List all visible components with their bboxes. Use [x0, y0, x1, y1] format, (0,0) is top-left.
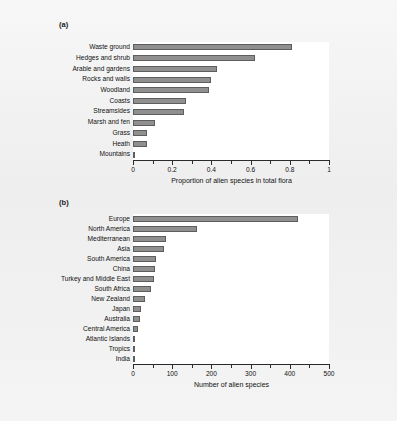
category-label: China: [16, 264, 133, 274]
x-tick-label: 400: [284, 370, 295, 377]
panel-a-category-labels: Waste groundHedges and shrubArable and g…: [20, 42, 133, 160]
category-label: Coasts: [20, 96, 133, 107]
x-tick-minor: [192, 161, 193, 164]
x-tick-label: 0.4: [207, 166, 216, 173]
x-tick-major: [172, 161, 173, 165]
bar: [133, 152, 135, 158]
bar: [133, 286, 151, 292]
x-tick-minor: [153, 161, 154, 164]
bar-row: [133, 354, 329, 364]
x-tick-label: 300: [245, 370, 256, 377]
panel-a-plot-area: [133, 42, 329, 160]
figure-canvas: (a) Waste groundHedges and shrubArable a…: [0, 0, 397, 421]
bar-row: [133, 304, 329, 314]
bar: [133, 236, 166, 242]
x-tick-label: 0.8: [285, 166, 294, 173]
x-tick-major: [172, 365, 173, 369]
bar: [133, 141, 147, 147]
bar-row: [133, 149, 329, 160]
bar: [133, 276, 154, 282]
x-tick-label: 500: [323, 370, 334, 377]
x-tick-major: [251, 365, 252, 369]
bar-row: [133, 63, 329, 74]
x-tick-minor: [309, 365, 310, 368]
category-label: Atlantic Islands: [16, 334, 133, 344]
bar: [133, 77, 211, 83]
bar: [133, 87, 209, 93]
x-tick-major: [251, 161, 252, 165]
category-label: Australia: [16, 314, 133, 324]
category-label: Mountains: [20, 149, 133, 160]
bar-row: [133, 74, 329, 85]
x-tick-label: 0: [131, 370, 135, 377]
bar: [133, 130, 147, 136]
category-label: India: [16, 354, 133, 364]
bar-row: [133, 214, 329, 224]
bar-row: [133, 96, 329, 107]
bar: [133, 246, 164, 252]
bar-row: [133, 42, 329, 53]
panel-b: (b) EuropeNorth AmericaMediterraneanAsia…: [0, 195, 397, 421]
category-label: Tropics: [16, 344, 133, 354]
bar-row: [133, 234, 329, 244]
x-tick-label: 1: [327, 166, 331, 173]
bar-row: [133, 254, 329, 264]
bar-row: [133, 314, 329, 324]
x-tick-major: [133, 161, 134, 165]
x-tick-minor: [153, 365, 154, 368]
bar-row: [133, 139, 329, 150]
bar: [133, 336, 135, 342]
bar: [133, 306, 141, 312]
category-label: North America: [16, 224, 133, 234]
bar: [133, 44, 292, 50]
bar-row: [133, 117, 329, 128]
x-tick-major: [329, 161, 330, 165]
bar: [133, 98, 186, 104]
category-label: Grass: [20, 128, 133, 139]
bar: [133, 316, 140, 322]
panel-a-x-axis-title: Proportion of alien species in total flo…: [133, 177, 330, 184]
panel-b-plot-area: [133, 214, 329, 364]
category-label: New Zealand: [16, 294, 133, 304]
bar: [133, 266, 155, 272]
x-tick-minor: [309, 161, 310, 164]
category-label: Mediterranean: [16, 234, 133, 244]
bar: [133, 109, 184, 115]
bar-row: [133, 106, 329, 117]
category-label: Asia: [16, 244, 133, 254]
x-tick-minor: [231, 365, 232, 368]
bar-row: [133, 53, 329, 64]
category-label: Hedges and shrub: [20, 53, 133, 64]
bar: [133, 256, 156, 262]
bar-row: [133, 244, 329, 254]
x-tick-minor: [270, 161, 271, 164]
category-label: South Africa: [16, 284, 133, 294]
x-tick-major: [211, 161, 212, 165]
bar-row: [133, 344, 329, 354]
category-label: Rocks and walls: [20, 74, 133, 85]
panel-b-x-axis-title: Number of alien species: [133, 381, 330, 388]
x-tick-label: 0.6: [246, 166, 255, 173]
bar: [133, 120, 155, 126]
category-label: Streamsides: [20, 106, 133, 117]
bar: [133, 66, 217, 72]
bar-row: [133, 128, 329, 139]
category-label: Heath: [20, 139, 133, 150]
category-label: Waste ground: [20, 42, 133, 53]
bar-row: [133, 324, 329, 334]
x-tick-minor: [231, 161, 232, 164]
x-tick-major: [290, 365, 291, 369]
panel-a: (a) Waste groundHedges and shrubArable a…: [0, 0, 397, 200]
x-tick-major: [290, 161, 291, 165]
bar: [133, 296, 145, 302]
bar-row: [133, 334, 329, 344]
category-label: Arable and gardens: [20, 63, 133, 74]
bar-row: [133, 224, 329, 234]
x-tick-label: 200: [206, 370, 217, 377]
category-label: Woodland: [20, 85, 133, 96]
bar: [133, 226, 197, 232]
category-label: Turkey and Middle East: [16, 274, 133, 284]
x-tick-label: 100: [167, 370, 178, 377]
panel-a-tag: (a): [59, 20, 68, 29]
category-label: South America: [16, 254, 133, 264]
